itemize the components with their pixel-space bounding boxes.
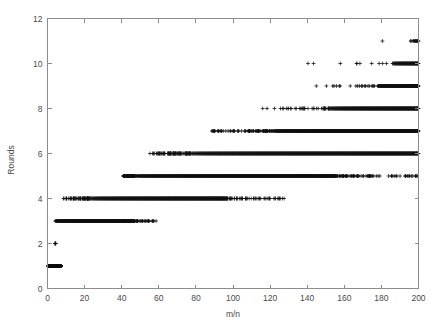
x-tick-label: 40 xyxy=(117,293,127,303)
x-tick-label: 120 xyxy=(263,293,277,303)
y-tick-label: 2 xyxy=(38,239,43,249)
x-tick-label: 80 xyxy=(191,293,201,303)
x-tick-label: 20 xyxy=(80,293,90,303)
x-tick-label: 140 xyxy=(300,293,314,303)
y-tick-label: 10 xyxy=(33,59,43,69)
y-axis-title: Rounds xyxy=(6,145,16,174)
y-tick-label: 12 xyxy=(33,14,43,24)
x-tick-label: 0 xyxy=(45,293,50,303)
x-tick-label: 160 xyxy=(337,293,351,303)
x-tick-label: 200 xyxy=(411,293,425,303)
y-tick-label: 8 xyxy=(38,104,43,114)
scatter-plot: 020406080100120140160180200 024681012 m/… xyxy=(0,0,440,325)
y-tick-label: 0 xyxy=(38,284,43,294)
x-tick-label: 100 xyxy=(226,293,240,303)
x-axis-title: m/n xyxy=(226,309,240,319)
chart-figure: 020406080100120140160180200 024681012 m/… xyxy=(0,0,440,325)
y-tick-label: 6 xyxy=(38,149,43,159)
x-tick-label: 180 xyxy=(374,293,388,303)
x-tick-label: 60 xyxy=(154,293,164,303)
y-tick-label: 4 xyxy=(38,194,43,204)
chart-background xyxy=(0,0,440,325)
